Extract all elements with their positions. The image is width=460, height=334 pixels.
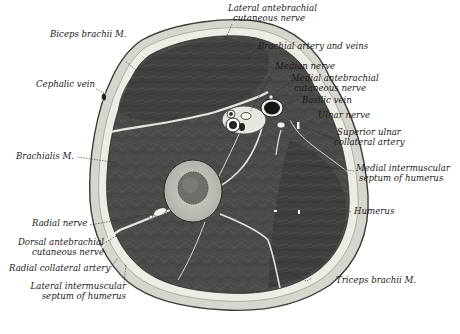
label-line-2: cutaneous nerve: [291, 84, 379, 94]
label-median-nerve: Median nerve: [275, 62, 335, 72]
median-nerve: [241, 113, 251, 120]
label-brachial-artery-and-veins: Brachial artery and veins: [258, 42, 368, 52]
triceps-vessel-1: [274, 210, 277, 212]
basilic-vein-lumen: [264, 102, 280, 115]
label-lateral-antebrachial-cutaneous-nerve: Lateral antebrachial cutaneous nerve: [228, 4, 317, 23]
label-radial-nerve: Radial nerve: [32, 219, 87, 229]
label-biceps-brachii: Biceps brachii M.: [50, 30, 126, 40]
cephalic-vein: [102, 93, 107, 101]
label-line-2: septum of humerus: [356, 174, 450, 184]
triceps-vessel-2: [298, 210, 300, 214]
medial-antebrachial-nerve: [269, 95, 273, 99]
label-radial-collateral-artery: Radial collateral artery: [9, 264, 110, 274]
label-line-2: cutaneous nerve: [12, 248, 104, 258]
label-humerus: Humerus: [354, 207, 394, 217]
brachial-artery-lumen: [229, 121, 237, 129]
label-brachialis: Brachialis M.: [16, 152, 74, 162]
label-dorsal-antebrachial-cutaneous-nerve: Dorsal antebrachial cutaneous nerve: [12, 238, 104, 257]
marrow-highlight: [182, 177, 198, 193]
brachial-vein-1-lumen: [229, 112, 233, 116]
label-line-2: septum of humerus: [24, 292, 126, 302]
label-line-2: collateral artery: [334, 138, 405, 148]
label-medial-antebrachial-cutaneous-nerve: Medial antebrachial cutaneous nerve: [291, 74, 379, 93]
label-ulnar-nerve: Ulnar nerve: [318, 111, 370, 121]
label-cephalic-vein: Cephalic vein: [36, 80, 95, 90]
label-superior-ulnar-collateral-artery: Superior ulnar collateral artery: [337, 128, 405, 147]
radial-collateral-vessel: [149, 215, 153, 219]
label-medial-intermuscular-septum: Medial intermuscular septum of humerus: [356, 164, 450, 183]
brachial-vein-2: [239, 123, 245, 131]
superior-ulnar-collateral-artery: [297, 122, 300, 129]
label-line-2: cutaneous nerve: [228, 14, 317, 24]
ulnar-nerve: [277, 122, 285, 128]
label-basilic-vein: Basilic vein: [302, 96, 352, 106]
label-triceps-brachii: Triceps brachii M.: [336, 276, 416, 286]
label-lateral-intermuscular-septum: Lateral intermuscular septum of humerus: [24, 282, 126, 301]
